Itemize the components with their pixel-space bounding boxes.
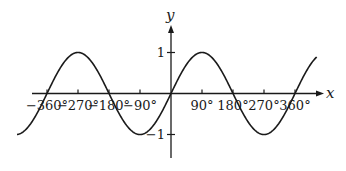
x-axis-arrow-icon bbox=[316, 91, 324, 97]
sine-graph: x y −360°−270°−180°−90°90°180°270°360°1−… bbox=[0, 0, 346, 171]
y-tick-label: −1 bbox=[146, 127, 165, 142]
x-axis-label: x bbox=[326, 84, 335, 102]
x-tick-label: 180° bbox=[217, 98, 248, 113]
x-tick-label: 360° bbox=[279, 98, 310, 113]
y-axis-arrow-icon bbox=[168, 25, 174, 33]
x-tick-label: −90° bbox=[123, 98, 157, 113]
y-axis-label: y bbox=[165, 6, 175, 24]
y-tick-label: 1 bbox=[157, 45, 165, 60]
x-tick-label: 90° bbox=[190, 98, 213, 113]
x-tick-label: 270° bbox=[248, 98, 279, 113]
